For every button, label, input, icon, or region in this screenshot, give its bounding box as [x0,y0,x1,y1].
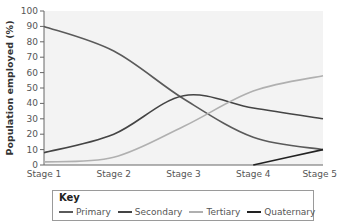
primary-line-swatch-icon [59,211,73,212]
legend: Key Primary Secondary Tertiary Quaternar… [52,190,314,221]
legend-items: Primary Secondary Tertiary Quaternary [59,207,315,217]
legend-item-quaternary: Quaternary [247,207,315,217]
x-tick-label: Stage 2 [96,169,131,179]
y-tick-label: 70 [27,52,39,62]
y-tick-label: 20 [27,129,39,139]
plot-area [44,11,323,165]
x-tick-label: Stage 3 [166,169,201,179]
legend-label: Secondary [135,207,183,217]
quaternary-line-swatch-icon [247,211,261,212]
x-tick-label: Stage 1 [27,169,62,179]
y-tick-label: 30 [27,114,39,124]
legend-title: Key [59,192,80,203]
y-tick-label: 60 [27,68,39,78]
x-tick-label: Stage 5 [302,169,337,179]
secondary-line-swatch-icon [118,211,132,212]
legend-label: Quaternary [264,207,315,217]
y-tick-label: 80 [27,37,39,47]
y-tick-label: 40 [27,98,39,108]
legend-item-secondary: Secondary [118,207,183,217]
legend-label: Primary [76,207,111,217]
tertiary-line-swatch-icon [189,211,203,212]
y-axis: 0102030405060708090100 [21,6,44,170]
y-axis-label: Population employed (%) [4,21,15,156]
legend-item-tertiary: Tertiary [189,207,240,217]
y-tick-label: 10 [27,145,39,155]
y-tick-label: 50 [27,83,39,93]
y-tick-label: 100 [21,6,38,16]
x-axis: Stage 1Stage 2Stage 3Stage 4Stage 5 [27,165,337,179]
y-tick-label: 90 [27,21,39,31]
legend-item-primary: Primary [59,207,111,217]
line-chart: 0102030405060708090100 Stage 1Stage 2Sta… [0,0,341,190]
legend-label: Tertiary [206,207,240,217]
x-tick-label: Stage 4 [236,169,271,179]
